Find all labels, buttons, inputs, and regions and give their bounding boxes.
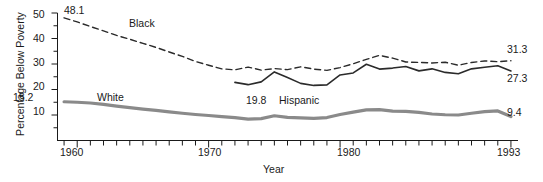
- y-axis-ticks: [52, 13, 58, 128]
- x-tick-label-1993: 1993: [497, 146, 520, 158]
- white-start-value-label: 15.2: [13, 91, 33, 103]
- x-axis-ticks: [64, 141, 511, 148]
- x-axis-label: Year: [263, 163, 284, 175]
- white-series-label: White: [97, 91, 124, 103]
- hispanic-start-value-label: 19.8: [246, 94, 266, 106]
- y-tick-label-20: 20: [33, 80, 45, 92]
- black-start-value-label: 48.1: [64, 4, 84, 16]
- y-tick-label-30: 30: [33, 56, 45, 68]
- black-series-label: Black: [129, 17, 155, 29]
- hispanic-series-label: Hispanic: [279, 94, 319, 106]
- y-tick-label-50: 50: [33, 8, 45, 20]
- x-tick-label-1980: 1980: [337, 146, 360, 158]
- poverty-line-chart: Percentage Below Poverty 50 40 30 20 10 …: [0, 0, 543, 182]
- black-end-value-label: 31.3: [507, 43, 527, 55]
- x-tick-label-1970: 1970: [198, 146, 221, 158]
- series-line-hispanic: [235, 64, 511, 85]
- x-tick-label-1960: 1960: [60, 146, 83, 158]
- hispanic-end-value-label: 27.3: [507, 72, 527, 84]
- y-tick-label-10: 10: [33, 105, 45, 117]
- y-tick-label-40: 40: [33, 32, 45, 44]
- white-end-value-label: 9.4: [507, 106, 522, 118]
